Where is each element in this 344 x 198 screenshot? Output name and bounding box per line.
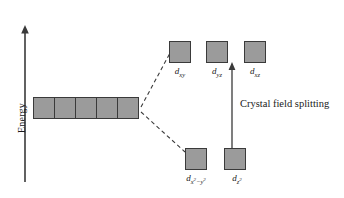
orbital-label-dxz-sub: xz <box>255 71 260 78</box>
crystal-field-splitting-label: Crystal field splitting <box>240 98 329 109</box>
orbital-label-dx2-y2-sup2: 2 <box>203 177 206 182</box>
orbital-label-dyz-base: d <box>212 66 217 76</box>
orbital-label-dx2-y2: dx2−y2 <box>175 174 217 183</box>
orbital-box-degenerate-1 <box>33 97 55 119</box>
orbital-box-degenerate-2 <box>54 97 76 119</box>
orbital-box-dxz <box>244 41 266 63</box>
orbital-label-dyz: dyz <box>206 67 228 76</box>
orbital-box-degenerate-5 <box>117 97 139 119</box>
orbital-label-dxy: dxy <box>169 67 191 76</box>
crystal-field-splitting-diagram: Energy dxy dyz dxz dx2−y2 dz2 Crystal fi… <box>0 0 344 198</box>
crystal-field-splitting-arrow <box>229 62 236 158</box>
orbital-box-degenerate-3 <box>75 97 97 119</box>
degenerate-d-orbital-level <box>33 97 139 119</box>
orbital-label-dxy-sub: xy <box>179 71 185 78</box>
correlation-line-upper <box>141 53 170 107</box>
orbital-label-dz2-sup1: 2 <box>239 177 242 182</box>
orbital-box-dx2-y2 <box>185 148 207 170</box>
orbital-box-dyz <box>206 41 228 63</box>
orbital-box-dxy <box>169 41 191 63</box>
orbital-label-dz2: dz2 <box>224 174 250 183</box>
orbital-box-dz2 <box>224 148 246 170</box>
orbital-label-dxz-base: d <box>250 66 255 76</box>
orbital-box-degenerate-4 <box>96 97 118 119</box>
orbital-label-dx2-y2-sup1: 2 <box>194 177 197 182</box>
correlation-line-lower <box>141 112 185 152</box>
orbital-label-dxz: dxz <box>244 67 266 76</box>
energy-axis-label: Energy <box>16 103 27 133</box>
orbital-label-dyz-sub: yz <box>217 71 222 78</box>
